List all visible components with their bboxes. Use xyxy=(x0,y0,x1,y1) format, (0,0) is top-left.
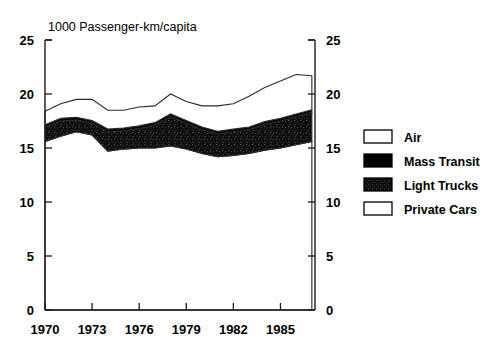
y-tick-label-left: 15 xyxy=(20,141,34,156)
x-tick-label: 1982 xyxy=(219,322,248,337)
y-tick-label-left: 25 xyxy=(20,33,34,48)
legend-label: Mass Transit xyxy=(404,155,481,169)
chart-canvas: 00551010151520202525 1970197319761979198… xyxy=(0,0,489,355)
legend-swatch-air xyxy=(364,130,392,143)
area-band-private-cars xyxy=(45,132,312,310)
legend-swatch-mass-transit xyxy=(364,154,392,167)
chart-legend: AirMass TransitLight TrucksPrivate Cars xyxy=(364,130,481,217)
y-axis-label: 1000 Passenger-km/capita xyxy=(48,20,197,34)
y-tick-label-right: 5 xyxy=(326,249,333,264)
chart-figure: 00551010151520202525 1970197319761979198… xyxy=(0,0,489,355)
area-bands xyxy=(45,75,312,310)
y-tick-label-left: 20 xyxy=(20,87,34,102)
legend-swatch-private-cars xyxy=(364,202,392,215)
y-tick-label-left: 10 xyxy=(20,195,34,210)
x-tick-label: 1985 xyxy=(266,322,295,337)
y-tick-label-left: 0 xyxy=(27,303,34,318)
y-tick-label-right: 25 xyxy=(326,33,340,48)
legend-label: Air xyxy=(404,131,422,145)
x-tick-label: 1976 xyxy=(125,322,154,337)
x-tick-label: 1979 xyxy=(172,322,201,337)
y-tick-label-right: 0 xyxy=(326,303,333,318)
legend-swatch-light-trucks xyxy=(364,178,392,191)
y-tick-label-right: 15 xyxy=(326,141,340,156)
y-tick-label-left: 5 xyxy=(27,249,34,264)
legend-label: Private Cars xyxy=(404,203,477,217)
legend-label: Light Trucks xyxy=(404,179,478,193)
y-tick-label-right: 20 xyxy=(326,87,340,102)
x-tick-label: 1973 xyxy=(78,322,107,337)
y-tick-label-right: 10 xyxy=(326,195,340,210)
x-tick-label: 1970 xyxy=(31,322,60,337)
